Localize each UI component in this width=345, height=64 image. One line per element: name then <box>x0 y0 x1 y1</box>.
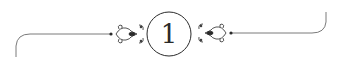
left-flourish-icon <box>116 25 143 43</box>
left-rule-line <box>16 34 110 57</box>
chapter-divider-ornament: 1 <box>0 0 345 64</box>
right-flourish-icon <box>199 24 226 42</box>
left-dot <box>109 32 112 35</box>
right-rule-line <box>232 12 326 33</box>
right-dot <box>229 31 232 34</box>
chapter-number: 1 <box>146 12 192 56</box>
